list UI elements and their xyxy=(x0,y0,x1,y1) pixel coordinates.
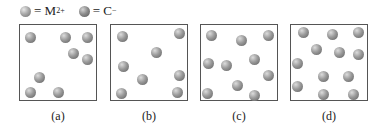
legend-item-anion: = C− xyxy=(79,3,117,19)
panel-b xyxy=(110,24,188,101)
ion-sphere-icon xyxy=(298,27,309,38)
ion-sphere-icon xyxy=(343,71,354,82)
panel-label: (b) xyxy=(110,109,188,124)
panel-c xyxy=(200,24,278,101)
panel-a xyxy=(19,24,97,101)
ion-sphere-icon xyxy=(82,54,93,65)
ion-sphere-icon xyxy=(206,30,217,41)
ion-sphere-icon xyxy=(118,61,129,72)
ion-sphere-icon xyxy=(348,89,359,100)
panel-label: (a) xyxy=(19,109,97,124)
legend-item-metal-ion: = M2+ xyxy=(20,3,65,19)
ion-sphere-icon xyxy=(353,49,364,60)
ion-sphere-icon xyxy=(117,31,128,42)
legend: = M2+ = C− xyxy=(20,3,130,19)
ion-sphere-icon xyxy=(327,29,338,40)
ion-sphere-icon xyxy=(292,81,303,92)
ion-sphere-icon xyxy=(151,47,162,58)
ion-sphere-icon xyxy=(116,88,127,99)
ion-sphere-icon xyxy=(353,27,364,38)
ion-sphere-icon xyxy=(236,35,247,46)
ion-sphere-icon xyxy=(318,71,329,82)
metal-ion-sphere-icon xyxy=(20,6,31,17)
panel-label: (c) xyxy=(200,109,278,124)
anion-sphere-icon xyxy=(79,6,90,17)
ion-sphere-icon xyxy=(68,48,79,59)
ion-sphere-icon xyxy=(53,87,64,98)
ion-sphere-icon xyxy=(311,44,322,55)
ion-sphere-icon xyxy=(221,60,232,71)
panel-d xyxy=(290,24,368,101)
ion-sphere-icon xyxy=(34,72,45,83)
ion-sphere-icon xyxy=(174,28,185,39)
ion-sphere-icon xyxy=(172,87,183,98)
ion-sphere-icon xyxy=(82,32,93,43)
ion-sphere-icon xyxy=(203,58,214,69)
ion-sphere-icon xyxy=(263,30,274,41)
ion-sphere-icon xyxy=(249,54,260,65)
ion-sphere-icon xyxy=(318,89,329,100)
panel-label: (d) xyxy=(290,109,368,124)
ion-sphere-icon xyxy=(232,80,243,91)
ion-sphere-icon xyxy=(60,32,71,43)
ion-sphere-icon xyxy=(174,70,185,81)
ion-sphere-icon xyxy=(25,32,36,43)
ion-sphere-icon xyxy=(202,88,213,99)
ion-sphere-icon xyxy=(292,58,303,69)
ion-sphere-icon xyxy=(249,90,260,101)
legend-label-anion: = C xyxy=(93,3,112,19)
ion-sphere-icon xyxy=(137,74,148,85)
ion-sphere-icon xyxy=(25,87,36,98)
ion-sphere-icon xyxy=(263,70,274,81)
ion-sphere-icon xyxy=(334,47,345,58)
legend-label-metal: = M xyxy=(34,3,56,19)
